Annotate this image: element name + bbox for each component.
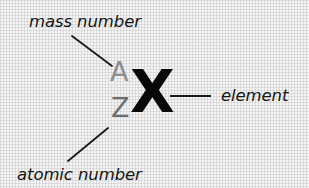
atomic-number-label: atomic number (17, 165, 142, 184)
mass-number-label: mass number (29, 12, 141, 31)
nuclide-notation-diagram: mass number atomic number element A Z X (0, 0, 309, 188)
atomic-number-symbol: Z (111, 94, 130, 121)
mass-number-symbol: A (110, 58, 128, 85)
atomic-number-leader-line (68, 128, 108, 161)
element-label: element (221, 86, 288, 105)
mass-number-leader-line (72, 36, 112, 66)
element-symbol: X (130, 63, 174, 121)
